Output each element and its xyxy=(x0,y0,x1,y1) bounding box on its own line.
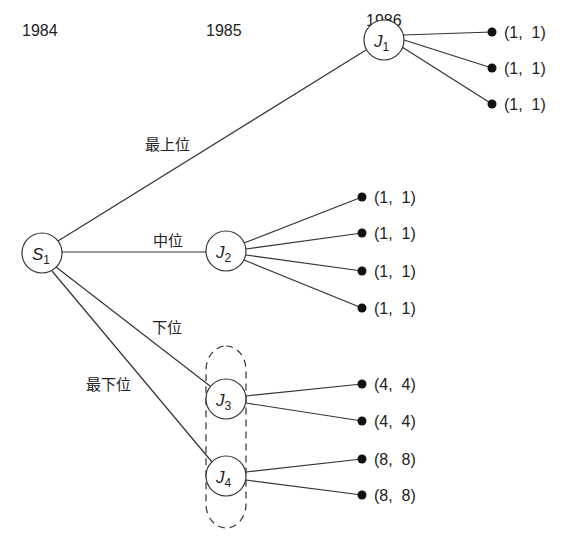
payoff-j1-3: (1, 1) xyxy=(504,96,546,113)
edge-j1-leaf-3 xyxy=(402,47,492,104)
edge-j4-leaf-2 xyxy=(246,480,362,495)
edge-s1-j4 xyxy=(52,271,212,462)
edge-j2-leaf-4 xyxy=(244,260,362,308)
payoff-j3-2: (4, 4) xyxy=(374,413,416,430)
payoff-j2-2: (1, 1) xyxy=(374,225,416,242)
node-s1-sub: 1 xyxy=(43,253,50,267)
edge-j4-leaf-1 xyxy=(246,459,362,472)
node-j2: J2 xyxy=(206,231,246,271)
terminal-node xyxy=(358,417,367,426)
terminal-node xyxy=(488,64,497,73)
edge-s1-j1 xyxy=(58,50,366,241)
node-j4-main: J xyxy=(215,468,225,487)
edge-j2-leaf-3 xyxy=(246,255,362,271)
payoff-j2-4: (1, 1) xyxy=(374,300,416,317)
edge-j3-leaf-2 xyxy=(246,403,362,421)
terminal-node xyxy=(358,193,367,202)
terminal-node xyxy=(358,304,367,313)
payoff-j4-1: (8, 8) xyxy=(374,451,416,468)
node-s1: S1 xyxy=(22,233,62,273)
node-j3-main: J xyxy=(215,391,225,410)
edge-label-lower: 下位 xyxy=(152,319,182,337)
terminal-node xyxy=(358,229,367,238)
edge-label-middle: 中位 xyxy=(153,232,183,250)
year-label-1984: 1984 xyxy=(22,22,58,39)
node-j2-sub: 2 xyxy=(225,251,232,265)
node-j2-main: J xyxy=(215,243,225,262)
payoff-j2-1: (1, 1) xyxy=(374,189,416,206)
edge-j1-leaf-1 xyxy=(403,32,492,35)
edge-label-top: 最上位 xyxy=(145,136,190,154)
edge-j1-leaf-2 xyxy=(404,40,492,68)
terminal-node xyxy=(488,100,497,109)
payoff-j4-2: (8, 8) xyxy=(374,487,416,504)
node-j3-sub: 3 xyxy=(225,399,232,413)
node-s1-main: S xyxy=(32,245,44,264)
terminal-node xyxy=(358,455,367,464)
year-label-1985: 1985 xyxy=(206,22,242,39)
payoff-j3-1: (4, 4) xyxy=(374,376,416,393)
node-j4: J4 xyxy=(206,456,246,496)
information-set-j3-j4 xyxy=(206,346,246,528)
payoff-j1-2: (1, 1) xyxy=(504,60,546,77)
terminal-node xyxy=(358,267,367,276)
edge-j3-leaf-1 xyxy=(246,384,362,396)
node-j1-sub: 1 xyxy=(383,40,390,54)
node-j3: J3 xyxy=(206,379,246,419)
node-j1-main: J xyxy=(373,32,383,51)
payoff-j1-1: (1, 1) xyxy=(504,24,546,41)
node-j4-sub: 4 xyxy=(225,476,232,490)
node-j1: J1 xyxy=(364,20,404,60)
payoff-j2-3: (1, 1) xyxy=(374,263,416,280)
game-tree-diagram: 1984 1985 1986 S1 J1 J2 J3 J4 最上位 中位 xyxy=(0,0,578,544)
terminal-node xyxy=(358,491,367,500)
edge-label-bottom: 最下位 xyxy=(86,376,131,394)
terminal-node xyxy=(358,380,367,389)
terminal-node xyxy=(488,28,497,37)
edge-j2-leaf-1 xyxy=(244,197,362,243)
